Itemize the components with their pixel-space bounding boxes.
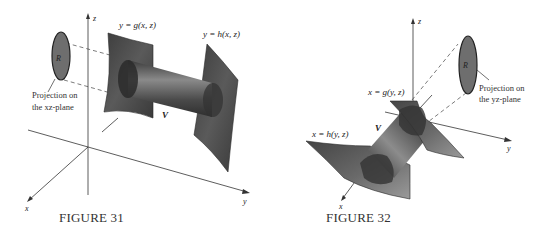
surface-h-label: y = h(x, z) (202, 29, 240, 39)
z-axis-arrow-icon (411, 18, 415, 24)
cylinder-end-right (203, 83, 223, 117)
surface-g-label: x = g(y, z) (367, 87, 405, 97)
projection-label-line1: Projection on (479, 83, 525, 93)
figure-32-diagram: R x = g(y, z) x = h(y, z) V Projection o… (272, 0, 544, 242)
projection-label-line2: the xz-plane (32, 102, 74, 112)
x-axis-label: x (24, 204, 29, 213)
y-axis-label: y (242, 197, 247, 206)
y-axis-arrow-icon (242, 189, 250, 194)
y-axis-label: y (506, 144, 511, 153)
region-r-ellipse (459, 36, 477, 94)
projection-pointer (477, 70, 489, 80)
figure-31-diagram: R y = g(x, z) y = h(x, z) V Projection o… (0, 0, 272, 242)
z-axis-label: z (92, 14, 97, 23)
projection-label-line1: Projection on (32, 90, 78, 100)
volume-label: V (375, 123, 382, 133)
x-axis-arrow-icon (341, 195, 346, 201)
surface-h-label: x = h(y, z) (311, 129, 349, 139)
y-axis-arrow-icon (504, 137, 512, 142)
surface-g-label: y = g(x, z) (118, 20, 156, 30)
figure-32: R x = g(y, z) x = h(y, z) V Projection o… (272, 0, 544, 242)
z-axis-arrow-icon (86, 13, 90, 19)
z-axis-label: z (417, 17, 422, 26)
region-label: R (462, 61, 468, 70)
x-axis (29, 147, 88, 200)
projection-label-line2: the yz-plane (479, 94, 521, 104)
figure-caption: FIGURE 31 (59, 210, 124, 226)
figure-31: R y = g(x, z) y = h(x, z) V Projection o… (0, 0, 272, 242)
region-label: R (55, 54, 61, 63)
region-r-ellipse (52, 32, 70, 80)
volume-label: V (162, 110, 169, 120)
figure-caption: FIGURE 32 (326, 210, 391, 226)
cylinder-end-left (118, 60, 138, 98)
